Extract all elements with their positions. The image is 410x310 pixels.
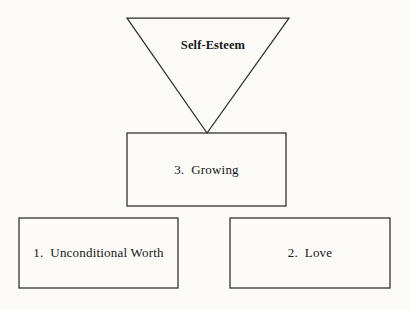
- growing-label: 3. Growing: [127, 133, 286, 206]
- love-label: 2. Love: [230, 218, 390, 288]
- diagram-canvas: Self-Esteem 3. Growing 1. Unconditional …: [0, 0, 410, 310]
- unconditional-worth-label: 1. Unconditional Worth: [19, 218, 178, 288]
- self-esteem-label: Self-Esteem: [127, 34, 289, 56]
